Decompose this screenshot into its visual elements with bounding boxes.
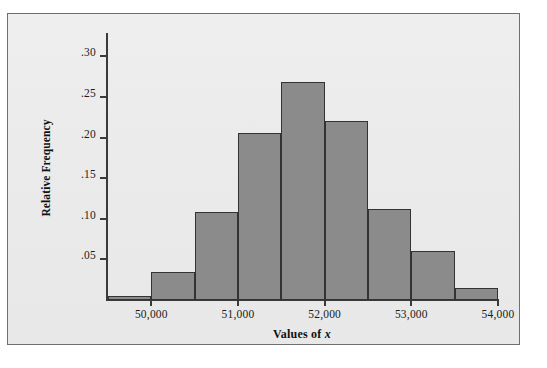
y-tick: .25 bbox=[100, 96, 108, 98]
x-tick bbox=[410, 299, 412, 306]
y-tick-label: .30 bbox=[81, 46, 96, 58]
y-tick-label: .25 bbox=[81, 87, 96, 99]
y-tick: .30 bbox=[100, 55, 108, 57]
histogram-bar bbox=[325, 121, 368, 300]
y-tick-label: .05 bbox=[81, 249, 96, 261]
histogram-figure: .05.10.15.20.25.30 50,00051,00052,00053,… bbox=[0, 0, 547, 368]
x-tick-label: 52,000 bbox=[308, 308, 341, 320]
histogram-bar bbox=[368, 209, 411, 300]
x-tick-label: 54,000 bbox=[482, 308, 515, 320]
x-axis-title-text: Values of bbox=[273, 327, 321, 341]
x-tick-label: 51,000 bbox=[222, 308, 255, 320]
x-tick-label: 50,000 bbox=[135, 308, 168, 320]
histogram-bar bbox=[195, 212, 238, 300]
histogram-bar bbox=[238, 133, 281, 300]
y-tick-label: .20 bbox=[81, 128, 96, 140]
figure-plate: .05.10.15.20.25.30 50,00051,00052,00053,… bbox=[7, 13, 520, 345]
y-tick-label: .15 bbox=[81, 168, 96, 180]
y-tick-label: .10 bbox=[81, 209, 96, 221]
y-tick: .10 bbox=[100, 218, 108, 220]
y-tick: .15 bbox=[100, 177, 108, 179]
x-tick bbox=[324, 299, 326, 306]
x-axis-title: Values of x bbox=[106, 327, 498, 342]
plot-area: .05.10.15.20.25.30 50,00051,00052,00053,… bbox=[8, 14, 521, 346]
x-tick bbox=[237, 299, 239, 306]
histogram-bar bbox=[108, 296, 151, 300]
x-tick-label: 53,000 bbox=[395, 308, 428, 320]
histogram-bar bbox=[281, 82, 324, 300]
histogram-bar bbox=[411, 251, 454, 300]
y-tick: .20 bbox=[100, 137, 108, 139]
y-axis-title: Relative Frequency bbox=[40, 98, 52, 238]
x-tick bbox=[150, 299, 152, 306]
y-tick: .05 bbox=[100, 258, 108, 260]
histogram-bar bbox=[455, 288, 498, 300]
histogram-bar bbox=[151, 272, 194, 300]
x-axis-title-variable: x bbox=[325, 327, 331, 341]
x-tick bbox=[497, 299, 499, 306]
